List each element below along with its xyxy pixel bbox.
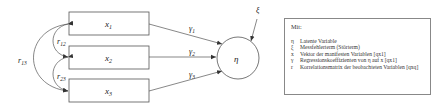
legend-text: Regressionskoeffizienten von η auf x [qx…: [300, 57, 424, 64]
legend-symbol: x: [291, 51, 300, 58]
legend-symbol: η: [291, 38, 300, 45]
label-r23: r23: [57, 72, 66, 82]
label-gamma2: γ2: [189, 47, 195, 57]
legend-item: ξ Messfehlerterm (Störterm): [291, 44, 424, 51]
label-r13: r13: [18, 56, 27, 66]
label-xi: ξ: [256, 6, 260, 15]
label-gamma1: γ1: [189, 24, 195, 34]
manifest-box-x2: x2: [69, 46, 149, 69]
legend-box: Mit: η Latente Variable ξ Messfehlerterm…: [284, 18, 431, 95]
legend-text: Vektor der manifesten Variablen [qx1]: [300, 51, 424, 58]
manifest-box-x3: x3: [69, 79, 149, 102]
path-error-term: [251, 19, 257, 41]
path-gamma1: [149, 24, 222, 44]
label-gamma3: γ3: [189, 70, 195, 80]
manifest-box-x1: x1: [69, 12, 149, 35]
legend-symbol: γ: [291, 57, 300, 64]
legend-symbol: r: [291, 64, 300, 71]
path-gamma3: [149, 71, 222, 91]
latent-variable-eta: η: [217, 37, 259, 79]
svg-text:η: η: [234, 54, 239, 64]
legend-title: Mit:: [291, 24, 424, 31]
legend-item: γ Regressionskoeffizienten von η auf x […: [291, 57, 424, 64]
legend-symbol: ξ: [291, 44, 300, 51]
label-r12: r12: [57, 37, 66, 47]
legend-text: Messfehlerterm (Störterm): [300, 44, 424, 51]
legend-item: x Vektor der manifesten Variablen [qx1]: [291, 51, 424, 58]
legend-item: η Latente Variable: [291, 38, 424, 45]
legend-text: Korrelationsmatrix der beobachteten Vari…: [300, 64, 424, 71]
legend-text: Latente Variable: [300, 38, 424, 45]
legend-item: r Korrelationsmatrix der beobachteten Va…: [291, 64, 424, 71]
correlation-arc-r23: [53, 57, 68, 91]
